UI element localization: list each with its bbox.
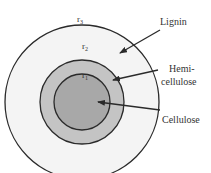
layer-diagram: r3 r2 r1 Lignin Hemi- cellulose Cellulos…: [0, 0, 211, 173]
radius-label-r3: r3: [77, 14, 83, 25]
label-cellulose: Cellulose: [162, 114, 200, 125]
label-lignin: Lignin: [160, 16, 187, 27]
label-hemicellulose-line2: cellulose: [161, 76, 197, 87]
label-hemicellulose-line1: Hemi-: [169, 63, 195, 74]
